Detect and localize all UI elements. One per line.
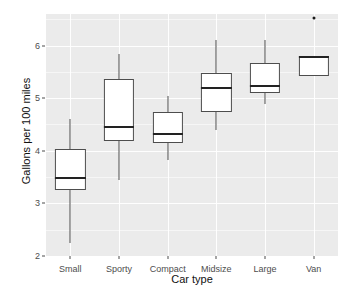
x-tick-mark-sporty — [119, 256, 120, 259]
whisker-upper — [216, 40, 217, 74]
box-compact — [143, 14, 192, 256]
plot-panel — [46, 14, 338, 256]
median-line — [250, 85, 280, 87]
median-line — [299, 56, 329, 58]
whisker-lower — [264, 93, 265, 104]
box-rect — [55, 149, 85, 190]
median-line — [201, 87, 231, 89]
median-line — [153, 133, 183, 135]
y-tick-mark-6 — [42, 45, 45, 46]
box-rect — [104, 79, 134, 141]
box-small — [46, 14, 95, 256]
median-line — [104, 126, 134, 128]
boxplot-figure: 23456 SmallSportyCompactMidsizeLargeVan … — [0, 0, 351, 294]
x-axis-title: Car type — [46, 273, 338, 285]
box-rect — [250, 63, 280, 93]
box-large — [241, 14, 290, 256]
whisker-upper — [118, 54, 119, 79]
y-tick-label-3: 3 — [35, 198, 40, 208]
outlier-point — [312, 16, 315, 19]
box-rect — [153, 112, 183, 143]
y-tick-mark-4 — [42, 150, 45, 151]
box-van — [289, 14, 338, 256]
y-tick-label-2: 2 — [35, 251, 40, 261]
whisker-lower — [167, 143, 168, 160]
median-line — [55, 177, 85, 179]
y-tick-label-6: 6 — [35, 41, 40, 51]
box-rect — [201, 73, 231, 111]
box-sporty — [95, 14, 144, 256]
box-rect — [299, 56, 329, 76]
whisker-lower — [216, 112, 217, 130]
box-midsize — [192, 14, 241, 256]
y-axis-title: Gallons per 100 miles — [20, 51, 32, 211]
x-tick-mark-large — [265, 256, 266, 259]
whisker-upper — [264, 40, 265, 64]
x-tick-mark-van — [313, 256, 314, 259]
y-tick-mark-2 — [42, 256, 45, 257]
y-tick-label-4: 4 — [35, 146, 40, 156]
y-tick-label-5: 5 — [35, 93, 40, 103]
whisker-lower — [118, 141, 119, 180]
x-tick-mark-midsize — [216, 256, 217, 259]
whisker-lower — [70, 190, 71, 243]
y-tick-mark-3 — [42, 203, 45, 204]
whisker-upper — [70, 119, 71, 149]
y-tick-mark-5 — [42, 98, 45, 99]
x-tick-mark-small — [70, 256, 71, 259]
whisker-upper — [167, 96, 168, 112]
x-tick-mark-compact — [167, 256, 168, 259]
